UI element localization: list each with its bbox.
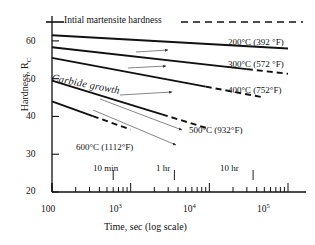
- chart-figure: 60 50 40 30 20 Hardness, RC 100 103 104 …: [0, 0, 315, 245]
- series-line-dashed-300: [247, 69, 288, 74]
- growth-arrow-1: [136, 50, 168, 52]
- growth-arrow-2: [128, 66, 166, 68]
- y-tick-label-30: 30: [26, 149, 36, 159]
- x-tick-label-1e5: 105: [257, 202, 270, 214]
- reference-line-label: Intial martensite hardness: [64, 15, 162, 25]
- series-label-200c: 200°C (392 °F): [228, 37, 284, 47]
- y-axis-title: Hardness, RC: [19, 40, 32, 130]
- series-line-solid-300: [52, 47, 247, 69]
- series-label-300c: 300°C (572 °F): [228, 59, 284, 69]
- series-line-solid-600: [52, 101, 93, 116]
- x-tick-label-1e3: 103: [109, 202, 122, 214]
- x-tick-label-1e4: 104: [183, 202, 196, 214]
- y-axis-title-subscript: C: [25, 58, 32, 62]
- time-annotation-10hr: 10 hr: [220, 163, 239, 173]
- x-tick-100-base: 100: [41, 204, 55, 214]
- x-tick-1e4-base: 10: [183, 204, 193, 214]
- series-label-500c: 500°C (932°F): [189, 125, 242, 135]
- growth-arrow-4: [100, 99, 182, 130]
- x-tick-1e5-base: 10: [257, 204, 267, 214]
- x-tick-1e3-exp: 3: [119, 202, 122, 209]
- time-annotation-1hr: 1 hr: [156, 163, 170, 173]
- series-label-400c: 400°C (752°F): [228, 85, 281, 95]
- x-tick-label-100: 100: [41, 202, 55, 214]
- series-label-600c: 600°C (1112°F): [76, 142, 133, 152]
- x-tick-1e3-base: 10: [109, 204, 119, 214]
- y-tick-label-20: 20: [26, 186, 36, 196]
- x-tick-1e5-exp: 5: [267, 202, 270, 209]
- time-annotation-10min: 10 min: [93, 163, 118, 173]
- growth-arrow-3: [120, 92, 172, 95]
- y-axis-title-text: Hardness, R: [19, 62, 30, 111]
- x-tick-1e4-exp: 4: [193, 202, 196, 209]
- x-axis-title: Time, sec (log scale): [104, 221, 187, 232]
